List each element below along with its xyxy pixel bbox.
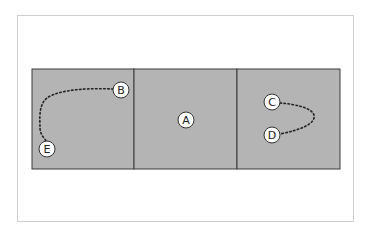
node-d-label: D <box>268 129 276 142</box>
node-d: D <box>264 127 280 143</box>
diagram-canvas: B E A C D <box>0 0 375 237</box>
node-e-label: E <box>44 143 51 156</box>
node-e: E <box>39 141 55 157</box>
node-b: B <box>113 82 129 98</box>
node-a: A <box>178 112 194 128</box>
panel-right <box>237 69 340 169</box>
node-a-label: A <box>182 114 190 127</box>
node-c: C <box>264 94 280 110</box>
node-b-label: B <box>117 84 125 97</box>
node-c-label: C <box>268 96 276 109</box>
